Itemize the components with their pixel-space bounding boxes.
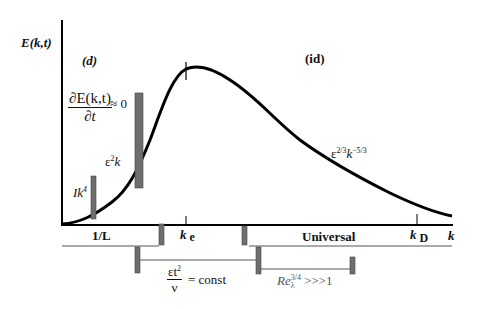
eps-t2-fraction: εt2 ν [167,265,182,294]
energy-spectrum-curve [62,67,452,224]
universal-label: Universal [302,230,355,243]
one-over-L-end-bar [159,224,164,245]
re-end-bar [350,257,355,274]
kD-label: kD [410,228,428,241]
dissipative-region-label: (d) [82,54,97,67]
eps-t2-numerator: εt2 [167,265,182,280]
ke-base: k [180,227,187,242]
kolmogorov-exp2: −5/3 [352,146,366,155]
ik4-label: Ik4 [73,186,87,199]
eps2k-tail: k [114,154,120,169]
kD-base: k [410,227,417,242]
eps-t2-rhs: = const [188,273,226,286]
dEdt-fraction: ∂E(k,t) ∂t [68,91,112,124]
universal-start-bar [242,226,247,245]
eps-t2-base: εt [168,264,177,279]
ke-sub: e [190,230,195,244]
re-script: 3/4λ [291,274,301,290]
dEdt-denominator: ∂t [84,108,96,124]
y-axis-label: E(k,t) [21,36,52,49]
kolmogorov-label: ε2/3k−5/3 [331,147,367,160]
re-sub: λ [291,282,301,290]
dissipative-region-text: (d) [82,53,97,68]
re-rhs: >>>1 [304,273,333,288]
re-base: Re [277,273,291,288]
ik4-base: Ik [73,185,83,200]
ik4-exp: 4 [83,185,87,194]
eps-t2-denominator: ν [172,280,178,294]
eps-t2-end-bar [256,247,261,274]
kD-sub: D [420,231,429,245]
x-axis-label: k [448,229,455,242]
dEdt-marker-bar [135,93,143,188]
ke-label: ke [180,228,195,241]
ik4-marker-bar [91,176,96,219]
spectrum-diagram [0,0,477,309]
reynolds-condition: Re3/4λ>>>1 [277,274,332,290]
eps2k-label: ε2k [105,155,120,168]
one-over-L-label: 1/L [92,229,111,242]
dEdt-rhs: ≈ 0 [110,97,127,110]
inertial-region-label: (id) [305,52,325,65]
eps-t2-start-bar [135,247,140,273]
kolmogorov-exp1: 2/3 [336,146,346,155]
dEdt-numerator: ∂E(k,t) [68,91,112,108]
eps-t2-exp: 2 [177,264,181,273]
